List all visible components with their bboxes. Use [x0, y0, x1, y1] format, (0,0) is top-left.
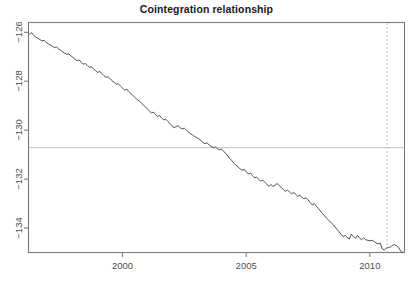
y-axis-tick-label: −126	[12, 15, 26, 49]
y-axis-tick-label: −130	[12, 113, 26, 147]
data-series-line	[30, 33, 403, 253]
y-axis-tick-label: −132	[12, 162, 26, 196]
x-axis-tick-label: 2010	[350, 260, 390, 271]
y-axis-tick-label: −128	[12, 64, 26, 98]
y-axis-tick-label: −134	[12, 211, 26, 245]
chart-figure: Cointegration relationship −126−128−130−…	[0, 0, 413, 285]
plot-canvas	[0, 0, 413, 285]
x-axis-tick-label: 2000	[103, 260, 143, 271]
plot-box-border	[29, 23, 405, 253]
x-axis-tick-label: 2005	[226, 260, 266, 271]
